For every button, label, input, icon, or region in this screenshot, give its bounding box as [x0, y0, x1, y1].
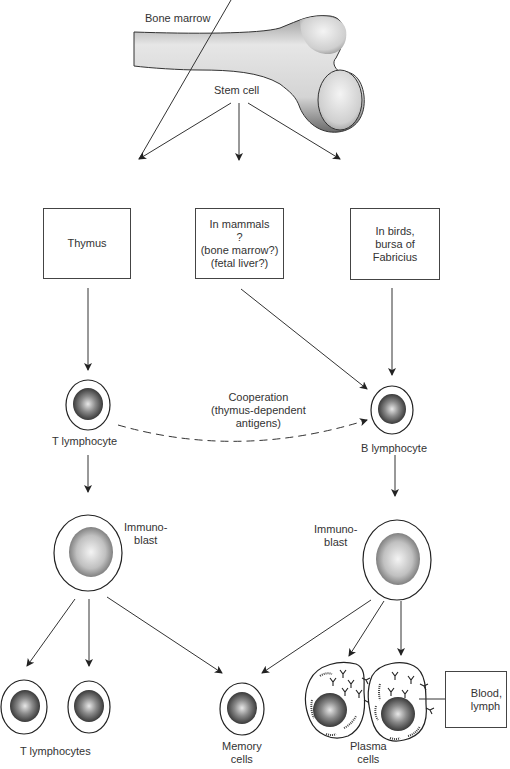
arrow-mammals-to-b [241, 289, 367, 389]
thymus-box: Thymus [43, 208, 131, 279]
mammals-label: In mammals ? (bone marrow?) (fetal liver… [201, 218, 279, 270]
b-immunoblast-cell [363, 520, 431, 600]
cooperation-label: Cooperation (thymus-dependent antigens) [211, 391, 306, 430]
arrow-b-to-memory [262, 600, 371, 673]
t-lymphocyte-label: T lymphocyte [52, 435, 117, 448]
arrow-to-t-lymphocyte-1 [27, 599, 75, 666]
t-lymphocytes-label: T lymphocytes [20, 745, 91, 758]
lymphocyte-development-diagram: Bone marrow Stem cell Thymus In mammals … [0, 0, 510, 769]
b-immunoblast-label: Immuno- blast [314, 523, 357, 549]
t-lymphocyte-cell [66, 380, 110, 430]
birds-bursa-box: In birds, bursa of Fabricius [350, 208, 440, 280]
arrow-to-plasma-1 [349, 601, 384, 656]
blood-lymph-label: Blood, lymph [471, 687, 502, 713]
stem-cell-label: Stem cell [214, 84, 259, 97]
t-immunoblast-label: Immuno- blast [124, 521, 167, 547]
b-lymphocyte-label: B lymphocyte [361, 442, 427, 455]
mammals-box: In mammals ? (bone marrow?) (fetal liver… [195, 208, 284, 279]
plasma-cell-2 [368, 663, 434, 741]
diagram-graphics [0, 0, 510, 769]
plasma-cells-label: Plasma cells [350, 740, 387, 766]
thymus-label: Thymus [67, 237, 106, 250]
t-lymphocyte-daughter-1 [1, 680, 47, 734]
b-lymphocyte-cell [371, 386, 413, 434]
bone-marrow-label: Bone marrow [145, 12, 210, 25]
birds-bursa-label: In birds, bursa of Fabricius [373, 225, 418, 264]
plasma-cell-1 [306, 663, 373, 738]
arrow-stem-to-thymus [139, 103, 231, 159]
blood-lymph-box: Blood, lymph [445, 671, 507, 728]
memory-cell [220, 683, 264, 735]
bone-illustration [134, 16, 364, 133]
arrow-t-to-memory [107, 597, 222, 673]
t-lymphocyte-daughter-2 [68, 681, 110, 733]
t-immunoblast-cell [54, 515, 122, 591]
memory-cells-label: Memory cells [222, 740, 262, 766]
